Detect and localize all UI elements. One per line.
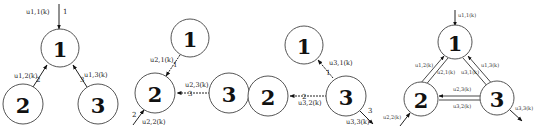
edge-d-ext-2: [400, 113, 410, 126]
edge-d-3-ext: [510, 110, 522, 121]
node-a-2-label: 2: [16, 93, 31, 118]
edge-label-d-u33: u3,3(k): [515, 105, 533, 111]
edge-label-c-u33: u3,3(k): [346, 118, 370, 126]
node-a-1-label: 1: [53, 37, 68, 62]
edge-label-a-u13: u1,3(k): [84, 71, 108, 79]
edge-label-d-u23: u2,3(k): [453, 86, 471, 92]
panel-a: u1,1(k) 1 1 u1,2(k) 2 u1,3(k) 3 2 3: [3, 4, 118, 124]
port-label-b-1: 1: [173, 61, 177, 69]
node-d-2-label: 2: [414, 88, 429, 113]
edge-label-c-u32: u3,2(k): [298, 99, 322, 107]
panel-b: 1 u2,1(k) 1 2 u2,3(k) 3 3 2 u2,2(k): [132, 19, 249, 126]
edge-label-b-u23: u2,3(k): [185, 81, 209, 89]
node-c-2-label: 2: [261, 85, 276, 110]
port-label-a-3: 3: [80, 76, 84, 84]
port-label-b-3: 3: [188, 90, 192, 98]
node-d-3-label: 3: [490, 87, 505, 112]
node-d-1-label: 1: [448, 31, 463, 56]
edge-label-d-u21: u2,1(k): [437, 69, 455, 75]
node-a-3-label: 3: [91, 93, 106, 118]
edge-label-d-u11: u1,1(k): [458, 12, 476, 18]
edge-label-d-u12: u1,2(k): [415, 62, 433, 68]
edge-label-d-u22: u2,2(k): [383, 114, 401, 120]
port-label-a-2: 2: [36, 76, 40, 84]
edge-label-c-u31: u3,1(k): [329, 59, 353, 67]
panel-c: 1 u3,1(k) 1 2 2 u3,2(k) 3 3 u3,3(k): [248, 26, 373, 126]
port-label-c-3: 3: [368, 107, 372, 115]
node-b-3-label: 3: [222, 82, 237, 107]
edge-label-d-u32: u3,2(k): [453, 103, 471, 109]
port-label-c-1: 1: [326, 69, 330, 77]
edge-label-d-u31: u3,1(k): [461, 69, 479, 75]
node-c-3-label: 3: [339, 85, 354, 110]
edge-label-b-u22: u2,2(k): [142, 118, 166, 126]
diagram-canvas: u1,1(k) 1 1 u1,2(k) 2 u1,3(k) 3 2 3 1 u2…: [0, 0, 535, 127]
edge-label-b-u21: u2,1(k): [150, 56, 174, 64]
panel-d: u1,1(k) 1 u1,2(k) u2,1(k) u1,3(k) u3,1(k…: [383, 10, 533, 126]
edge-label-a-u12: u1,2(k): [14, 72, 38, 80]
node-b-2-label: 2: [148, 82, 163, 107]
node-b-1-label: 1: [183, 27, 198, 52]
edge-label-d-u13: u1,3(k): [481, 62, 499, 68]
node-c-1-label: 1: [297, 34, 312, 59]
port-label-b-2: 2: [132, 111, 136, 119]
edge-label-a-u11: u1,1(k): [26, 8, 50, 16]
port-label-a-1: 1: [63, 8, 67, 16]
